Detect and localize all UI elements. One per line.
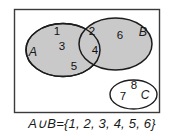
element-number: 3 (59, 40, 65, 52)
venn-diagram-figure: A B C 1 3 5 2 4 6 7 8 A∪B={1, 2, 3, 4, 5… (0, 0, 184, 136)
set-label-b: B (139, 25, 147, 39)
element-number: 2 (89, 25, 95, 37)
set-label-c: C (141, 88, 150, 102)
diagram-caption: A∪B={1, 2, 3, 4, 5, 6} (0, 116, 184, 131)
element-number: 6 (117, 29, 123, 41)
element-number: 4 (92, 44, 99, 56)
element-number: 1 (54, 25, 60, 37)
element-number: 8 (131, 79, 137, 91)
element-number: 7 (120, 90, 126, 102)
set-label-a: A (28, 45, 37, 59)
element-number: 5 (71, 60, 77, 72)
